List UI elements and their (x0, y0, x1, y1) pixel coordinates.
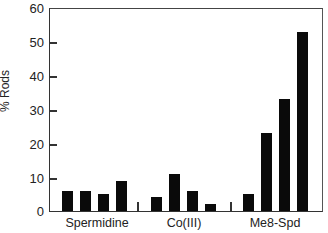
group-separator (230, 202, 232, 211)
bar-me8spd-3 (279, 99, 290, 211)
x-label-me8-spd: Me8-Spd (230, 216, 320, 230)
x-label-spermidine: Spermidine (52, 216, 142, 230)
y-tick-label-40: 40 (14, 70, 44, 83)
y-tick-label-10: 10 (14, 172, 44, 185)
x-label-co-iii: Co(III) (139, 216, 229, 230)
bar-spermidine-1 (62, 191, 73, 211)
y-tick (50, 178, 57, 180)
bar-co-1 (151, 197, 162, 211)
y-axis-title: % Rods (0, 70, 12, 112)
y-tick-label-30: 30 (14, 104, 44, 117)
bar-co-2 (169, 174, 180, 211)
bar-spermidine-4 (116, 181, 127, 211)
y-tick-label-20: 20 (14, 138, 44, 151)
y-tick (50, 144, 57, 146)
y-tick (50, 76, 57, 78)
bar-spermidine-3 (98, 194, 109, 211)
y-tick (50, 110, 57, 112)
bar-me8spd-1 (243, 194, 254, 211)
bar-co-3 (187, 191, 198, 211)
plot-area (49, 8, 323, 212)
bar-spermidine-2 (80, 191, 91, 211)
y-tick (50, 42, 57, 44)
bar-me8spd-2 (261, 133, 272, 211)
y-tick-label-50: 50 (14, 36, 44, 49)
y-tick-label-0: 0 (14, 205, 44, 218)
group-separator (137, 202, 139, 211)
bar-me8spd-4 (297, 32, 308, 211)
y-tick-label-60: 60 (14, 2, 44, 15)
bar-co-4 (205, 204, 216, 211)
